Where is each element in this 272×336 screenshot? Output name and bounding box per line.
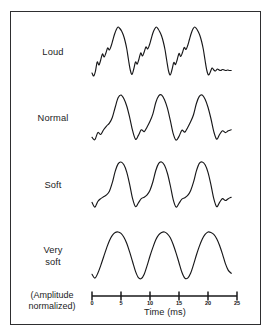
amplitude-normalized-note: (Amplitude normalized) <box>10 290 94 313</box>
row-label-normal: Normal <box>16 113 90 125</box>
axis-tick-label: 10 <box>142 300 158 306</box>
row-label-very-soft: Very soft <box>16 245 90 268</box>
axis-tick-label: 20 <box>200 300 216 306</box>
axis-tick-label: 5 <box>113 300 129 306</box>
axis-tick-label: 0 <box>84 300 100 306</box>
axis-tick-label: 25 <box>229 300 245 306</box>
waveform-figure: Loud Normal Soft Very soft (Amplitude no… <box>0 0 272 336</box>
axis-tick-label: 15 <box>171 300 187 306</box>
row-label-loud: Loud <box>16 47 90 59</box>
row-label-soft: Soft <box>16 180 90 192</box>
axis-title-time: Time (ms) <box>92 307 238 317</box>
